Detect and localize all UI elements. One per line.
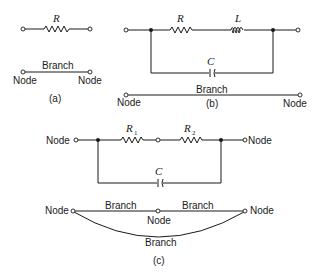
terminal-icon xyxy=(88,27,92,31)
node-icon xyxy=(71,209,75,213)
inductor-label-l: L xyxy=(234,12,241,24)
resistor-r1-subscript: 1 xyxy=(134,129,138,137)
terminal-icon xyxy=(243,138,247,142)
caption-a: (a) xyxy=(49,93,61,104)
r1-r2-c-circuit: Node Node R 1 R 2 C xyxy=(46,122,272,187)
node-icon xyxy=(21,70,25,74)
branch-label: Branch xyxy=(196,84,228,95)
resistor-label-r: R xyxy=(176,12,184,24)
branch-label: Branch xyxy=(105,200,137,211)
node-label: Node xyxy=(283,98,307,109)
node-label: Node xyxy=(117,97,141,108)
node-label-left: Node xyxy=(46,135,70,146)
node-label: Node xyxy=(78,75,102,86)
rlc-circuit-b: R L C xyxy=(124,12,300,77)
terminal-icon xyxy=(74,138,78,142)
terminal-icon xyxy=(296,28,300,32)
resistor-circuit-a: R xyxy=(21,12,92,32)
capacitor-label-c: C xyxy=(207,55,215,67)
terminal-icon xyxy=(21,27,25,31)
graph-c: Node Node Node Branch Branch Branch xyxy=(45,200,274,248)
branch-label: Branch xyxy=(182,200,214,211)
branch-label: Branch xyxy=(42,60,74,71)
resistor-label-r2: R xyxy=(183,122,191,134)
node-label: Node xyxy=(45,205,69,216)
node-icon xyxy=(156,209,160,213)
node-label-right: Node xyxy=(248,135,272,146)
branch-label: Branch xyxy=(145,237,177,248)
node-label: Node xyxy=(13,75,37,86)
resistor-r2-subscript: 2 xyxy=(192,129,196,137)
capacitor-label-c: C xyxy=(155,165,163,177)
inductor-icon xyxy=(231,28,243,34)
panel-b: R L C Branch Node Node (b) xyxy=(117,12,307,109)
panel-a: R Branch Node Node (a) xyxy=(13,12,102,104)
resistor-label-r1: R xyxy=(125,122,133,134)
graph-a: Branch Node Node xyxy=(13,60,102,86)
node-icon xyxy=(88,70,92,74)
caption-c: (c) xyxy=(153,255,165,266)
resistor-label-r: R xyxy=(52,12,60,24)
node-icon xyxy=(243,209,247,213)
terminal-icon xyxy=(124,28,128,32)
panel-c: Node Node R 1 R 2 C xyxy=(45,122,274,266)
node-icon xyxy=(298,93,302,97)
terminal-icon xyxy=(156,138,160,142)
node-label: Node xyxy=(147,215,171,226)
node-label: Node xyxy=(250,205,274,216)
circuit-diagram: R Branch Node Node (a) R L xyxy=(0,0,315,277)
caption-b: (b) xyxy=(206,98,218,109)
